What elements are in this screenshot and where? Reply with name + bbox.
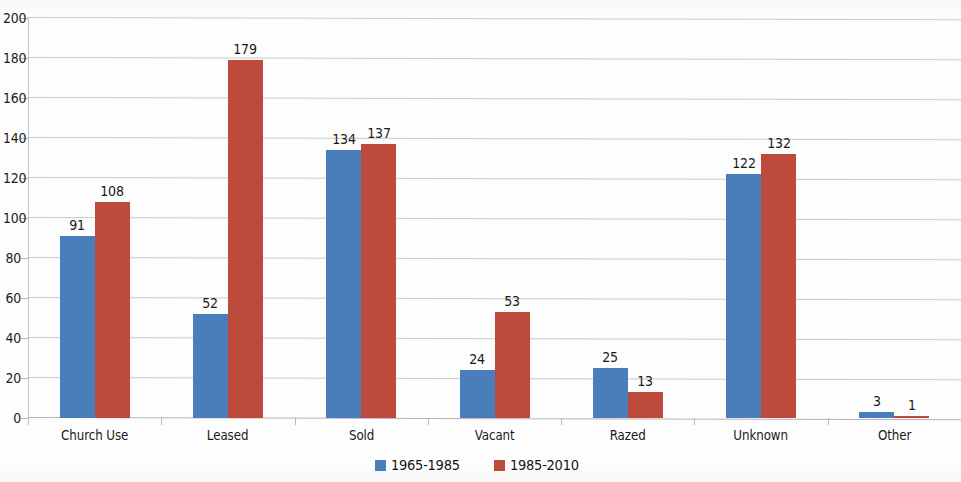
x-axis-category-label: Unknown (706, 426, 815, 444)
bar-groups: 91108521791341372453251312213231 (28, 18, 961, 418)
bar[interactable]: 25 (593, 368, 628, 418)
legend-swatch-icon (375, 460, 386, 471)
x-axis-tick (828, 418, 829, 425)
x-axis-tick (161, 418, 162, 425)
bar-pair: 31 (859, 18, 929, 418)
bar-group: 91108 (60, 18, 130, 418)
bar-pair: 122132 (726, 18, 796, 418)
bar[interactable]: 52 (193, 314, 228, 418)
bar-pair: 2453 (460, 18, 530, 418)
bar-value-label: 108 (100, 184, 124, 199)
bar[interactable]: 13 (628, 392, 663, 418)
legend-item[interactable]: 1965-1985 (375, 458, 467, 473)
y-axis-label: 140 (3, 131, 21, 145)
y-axis-label: 100 (3, 211, 21, 225)
bar-value-label: 132 (767, 136, 791, 151)
y-axis-label: 180 (3, 51, 21, 65)
bar-pair: 134137 (326, 18, 396, 418)
bar-group: 122132 (726, 18, 796, 418)
x-axis-tick (428, 418, 429, 425)
bar[interactable]: 132 (761, 154, 796, 418)
bar-chart: 020406080100120140160180200 911085217913… (0, 0, 961, 482)
bar-pair: 91108 (60, 18, 130, 418)
bar-value-label: 13 (637, 374, 653, 389)
x-axis-category-label: Razed (573, 426, 682, 444)
bar-value-label: 1 (908, 398, 916, 413)
y-axis-label: 80 (3, 251, 21, 265)
bar[interactable]: 91 (60, 236, 95, 418)
bar[interactable]: 53 (495, 312, 530, 418)
legend-label: 1965-1985 (391, 458, 460, 473)
x-axis-ticks (28, 418, 961, 425)
bar-pair: 52179 (193, 18, 263, 418)
x-axis-category-label: Sold (307, 426, 416, 444)
bar[interactable]: 108 (95, 202, 130, 418)
x-axis-category-label: Leased (173, 426, 282, 444)
y-axis-label: 200 (3, 11, 21, 25)
bar-group: 31 (859, 18, 929, 418)
x-axis-category-label: Church Use (40, 426, 149, 444)
x-axis-tick (295, 418, 296, 425)
bar-value-label: 3 (873, 394, 881, 409)
y-axis-label: 0 (3, 411, 21, 425)
bar-group: 134137 (326, 18, 396, 418)
bar-value-label: 134 (332, 132, 356, 147)
bar[interactable]: 24 (460, 370, 495, 418)
y-axis-label: 60 (3, 291, 21, 305)
bar[interactable]: 134 (326, 150, 361, 418)
legend-item[interactable]: 1985-2010 (494, 458, 586, 473)
y-axis-label: 20 (3, 371, 21, 385)
bar-value-label: 137 (367, 126, 391, 141)
bar-value-label: 179 (234, 42, 258, 57)
bar-value-label: 25 (602, 350, 618, 365)
bar-group: 2453 (460, 18, 530, 418)
bar-group: 52179 (193, 18, 263, 418)
bar-group: 2513 (593, 18, 663, 418)
x-axis-category-label: Vacant (440, 426, 549, 444)
y-axis-label: 160 (3, 91, 21, 105)
legend-label: 1985-2010 (510, 458, 579, 473)
bar-value-label: 53 (504, 294, 520, 309)
bar[interactable]: 137 (361, 144, 396, 418)
legend-swatch-icon (494, 460, 505, 471)
bar-pair: 2513 (593, 18, 663, 418)
bar-value-label: 122 (732, 156, 756, 171)
x-axis-category-labels: Church UseLeasedSoldVacantRazedUnknownOt… (28, 426, 961, 450)
bar-value-label: 24 (469, 352, 485, 367)
bar[interactable]: 122 (726, 174, 761, 418)
bar[interactable]: 179 (228, 60, 263, 418)
y-axis-label: 120 (3, 171, 21, 185)
bar-value-label: 91 (69, 218, 85, 233)
x-axis-tick (694, 418, 695, 425)
y-axis-label: 40 (3, 331, 21, 345)
x-axis-category-label: Other (840, 426, 949, 444)
x-axis-tick (28, 418, 29, 425)
chart-legend: 1965-19851985-2010 (0, 458, 961, 473)
bar-value-label: 52 (203, 296, 219, 311)
x-axis-tick (561, 418, 562, 425)
